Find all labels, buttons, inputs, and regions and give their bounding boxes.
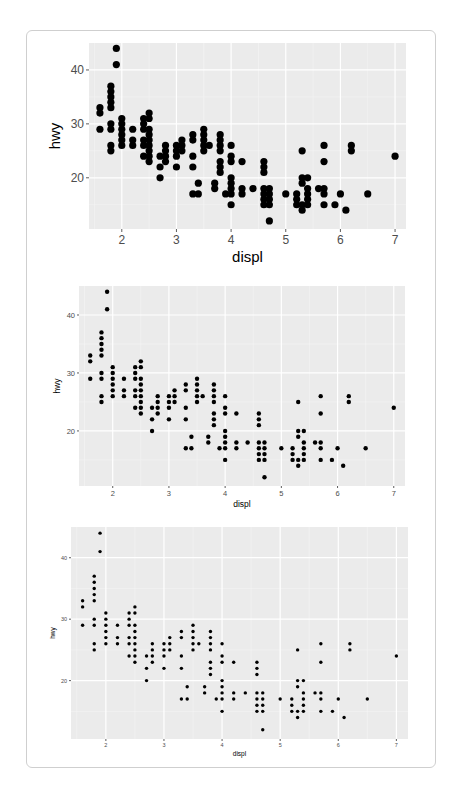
data-point [296, 679, 299, 682]
data-point [88, 359, 92, 363]
data-point [392, 406, 396, 410]
x-tick-label: 4 [221, 742, 224, 748]
data-point [162, 654, 165, 657]
y-axis-label: hwy [49, 626, 57, 638]
data-point [122, 388, 126, 392]
data-point [150, 417, 154, 421]
data-point [257, 458, 261, 462]
data-point [150, 406, 154, 410]
data-point [111, 365, 115, 369]
y-tick-label: 20 [61, 678, 67, 684]
data-point [228, 158, 235, 165]
data-point [127, 617, 130, 620]
data-point [255, 660, 258, 663]
data-point [299, 147, 306, 154]
data-point [330, 458, 334, 462]
data-point [220, 685, 223, 688]
data-point [99, 336, 103, 340]
data-point [155, 411, 159, 415]
data-point [335, 446, 339, 450]
data-point [191, 642, 194, 645]
data-point [88, 377, 92, 381]
data-point [113, 61, 120, 68]
data-point [107, 104, 114, 111]
data-point [290, 704, 293, 707]
data-point [341, 464, 345, 468]
data-point [262, 475, 266, 479]
data-point [260, 169, 267, 176]
data-point [304, 174, 311, 181]
data-point [184, 446, 188, 450]
data-point [319, 660, 322, 663]
data-point [195, 377, 199, 381]
data-point [212, 400, 216, 404]
data-point [104, 617, 107, 620]
data-point [172, 394, 176, 398]
data-point [167, 417, 171, 421]
data-point [151, 648, 154, 651]
data-point [162, 648, 165, 651]
x-tick-label: 2 [104, 742, 107, 748]
data-point [81, 624, 84, 627]
x-tick-label: 5 [279, 742, 282, 748]
data-point [296, 716, 299, 719]
data-point [133, 406, 137, 410]
data-point [116, 636, 119, 639]
data-point [98, 531, 101, 534]
data-point [299, 207, 306, 214]
data-point [212, 382, 216, 386]
x-tick-label: 6 [335, 489, 339, 498]
x-axis-label: displ [233, 750, 247, 758]
data-point [145, 679, 148, 682]
x-tick-label: 6 [337, 742, 340, 748]
data-point [261, 728, 264, 731]
y-tick-label: 30 [61, 616, 67, 622]
data-point [318, 411, 322, 415]
data-point [363, 446, 367, 450]
data-point [318, 458, 322, 462]
data-point [302, 429, 306, 433]
data-point [212, 388, 216, 392]
data-point [127, 611, 130, 614]
y-axis-label: hwy [46, 122, 63, 149]
y-axis-label: hwy [52, 378, 62, 394]
x-tick-label: 2 [111, 489, 115, 498]
data-point [228, 190, 235, 197]
x-tick-label: 5 [279, 489, 283, 498]
data-point [223, 429, 227, 433]
data-point [206, 142, 213, 149]
data-point [99, 353, 103, 357]
x-tick-label: 3 [162, 742, 165, 748]
data-point [184, 417, 188, 421]
data-point [189, 446, 193, 450]
data-point [127, 654, 130, 657]
data-point [255, 697, 258, 700]
y-tick-label: 40 [67, 311, 75, 320]
data-point [318, 446, 322, 450]
data-point [257, 440, 261, 444]
data-point [99, 348, 103, 352]
data-point [104, 624, 107, 627]
data-point [318, 440, 322, 444]
data-point [296, 429, 300, 433]
data-point [245, 440, 249, 444]
data-point [220, 697, 223, 700]
data-point [189, 435, 193, 439]
panel-background [79, 286, 405, 486]
data-point [302, 458, 306, 462]
data-point [104, 642, 107, 645]
data-point [302, 452, 306, 456]
data-point [180, 654, 183, 657]
x-tick-label: 4 [228, 233, 235, 247]
data-point [172, 388, 176, 392]
data-point [209, 648, 212, 651]
data-point [186, 685, 189, 688]
data-point [122, 377, 126, 381]
data-point [347, 394, 351, 398]
data-point [151, 660, 154, 663]
data-point [139, 388, 143, 392]
data-point [209, 673, 212, 676]
data-point [255, 704, 258, 707]
data-point [223, 440, 227, 444]
data-point [197, 642, 200, 645]
